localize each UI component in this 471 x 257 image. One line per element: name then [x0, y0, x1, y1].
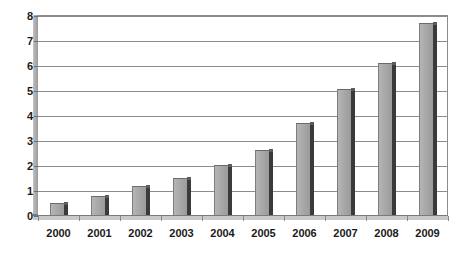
x-axis-tick-mark — [284, 216, 285, 221]
x-axis-tick-mark — [38, 216, 39, 221]
bar-slot — [38, 16, 79, 215]
x-axis-tick-mark — [448, 216, 449, 221]
bar — [214, 165, 228, 215]
x-axis-tick-label: 2003 — [169, 228, 193, 239]
x-axis-tick-mark — [161, 216, 162, 221]
x-axis-tick-label: 2007 — [333, 228, 357, 239]
x-axis-tick-label: 2002 — [128, 228, 152, 239]
bar — [378, 63, 392, 216]
x-axis-tick-label: 2008 — [374, 228, 398, 239]
y-axis-tick-label: 2 — [27, 161, 33, 172]
y-axis-tick-label: 8 — [27, 11, 33, 22]
bar-side-face — [187, 180, 191, 216]
bar-top-face — [64, 202, 68, 205]
bar-slot — [243, 16, 284, 215]
x-axis-tick-label: 2006 — [292, 228, 316, 239]
bar-slot — [120, 16, 161, 215]
bar-top-face — [351, 88, 355, 91]
x-axis-tick-mark — [243, 216, 244, 221]
bar — [255, 150, 269, 215]
bar-slot — [202, 16, 243, 215]
y-axis-tick-label: 7 — [27, 36, 33, 47]
x-axis-tick-label: 2000 — [46, 228, 70, 239]
bar-top-face — [310, 122, 314, 125]
y-axis-tick-label: 5 — [27, 86, 33, 97]
x-axis-tick-mark — [120, 216, 121, 221]
bar — [50, 203, 64, 216]
bar-top-face — [105, 195, 109, 198]
x-axis-tick-mark — [325, 216, 326, 221]
bar-side-face — [228, 167, 232, 215]
bar-side-face — [269, 152, 273, 215]
bar-top-face — [269, 149, 273, 152]
bar-slot — [366, 16, 407, 215]
x-axis-floor-shadow — [33, 216, 448, 220]
bar-slot — [161, 16, 202, 215]
bar-slot — [284, 16, 325, 215]
x-axis-tick-label: 2009 — [415, 228, 439, 239]
bar-side-face — [433, 25, 437, 216]
x-axis-tick-label: 2005 — [251, 228, 275, 239]
bar-top-face — [187, 177, 191, 180]
bar — [419, 23, 433, 216]
bar-side-face — [64, 205, 68, 216]
bar-top-face — [392, 62, 396, 65]
y-axis-tick-label: 6 — [27, 61, 33, 72]
x-axis-tick-mark — [202, 216, 203, 221]
x-axis-tick-label: 2001 — [87, 228, 111, 239]
bar — [296, 123, 310, 216]
bar — [173, 178, 187, 216]
bar-chart: 012345678 200020012002200320042005200620… — [0, 0, 471, 257]
bar-slot — [79, 16, 120, 215]
x-axis-tick-label: 2004 — [210, 228, 234, 239]
x-axis-tick-mark — [366, 216, 367, 221]
x-axis-tick-mark — [79, 216, 80, 221]
bar — [91, 196, 105, 215]
bar — [132, 186, 146, 215]
bar-top-face — [433, 22, 437, 25]
y-axis-tick-label: 3 — [27, 136, 33, 147]
bar-slot — [325, 16, 366, 215]
x-axis-tick-mark — [407, 216, 408, 221]
y-axis-tick-label: 1 — [27, 186, 33, 197]
y-axis-tick-label: 4 — [27, 111, 33, 122]
bar — [337, 89, 351, 215]
bar-side-face — [105, 198, 109, 215]
plot-area: 012345678 — [38, 15, 448, 215]
y-axis-tick-label: 0 — [27, 211, 33, 222]
bar-slot — [407, 16, 448, 215]
bar-side-face — [392, 65, 396, 216]
bar-side-face — [146, 188, 150, 215]
bar-side-face — [351, 91, 355, 215]
bar-top-face — [228, 164, 232, 167]
bar-side-face — [310, 125, 314, 216]
bar-top-face — [146, 185, 150, 188]
